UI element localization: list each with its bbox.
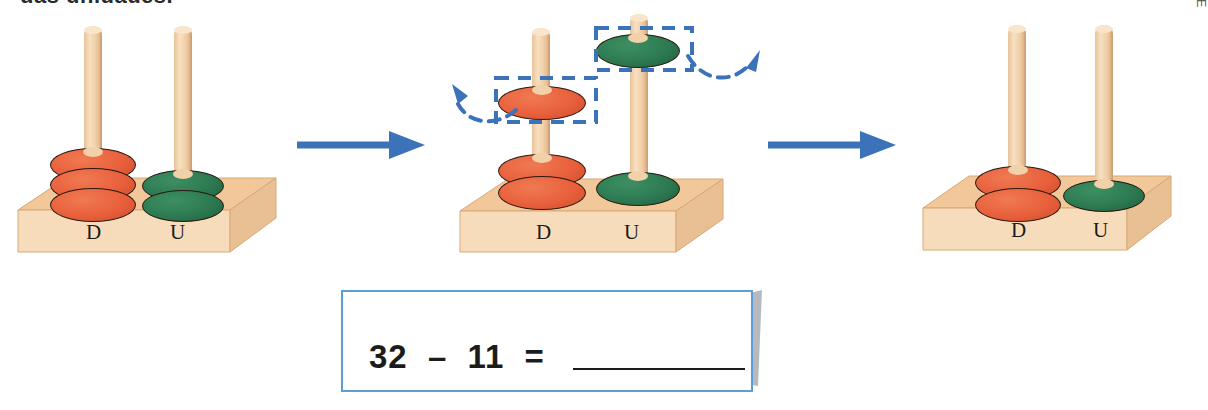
disc-green [1063, 180, 1145, 212]
peg-unidades [174, 26, 192, 186]
abacus-start: D U [8, 20, 283, 255]
disc-red [498, 176, 586, 210]
equation-box: 32 – 11 = [341, 290, 753, 392]
abacus-board [915, 20, 1177, 255]
column-label-u: U [1093, 218, 1108, 243]
column-label-d: D [1011, 218, 1026, 243]
arrow-step1-to-step2 [295, 128, 427, 162]
disc-red [975, 188, 1061, 222]
disc-green [142, 190, 224, 222]
cut-off-caption: das unidades. [20, 0, 173, 9]
curved-arrow-remove-red [440, 70, 520, 130]
column-label-u: U [170, 220, 185, 245]
column-label-u: U [624, 220, 639, 245]
equation-answer-blank[interactable] [573, 368, 745, 370]
peg-dezenas [1008, 25, 1026, 183]
abacus-board [8, 20, 283, 255]
equation-subtrahend: 11 [467, 338, 504, 375]
equation-minuend: 32 [369, 338, 408, 375]
curved-arrow-remove-green [684, 28, 770, 90]
peg-unidades [1095, 25, 1113, 195]
column-label-d: D [86, 220, 101, 245]
equation-operator: – [428, 338, 447, 375]
arrow-step2-to-step3 [766, 128, 898, 162]
illustration-credit: ILUSTRAÇÕES: EDITORIA DE ARTE [1194, 0, 1208, 8]
disc-green [596, 172, 680, 206]
abacus-result: D U [915, 20, 1177, 255]
column-label-d: D [536, 220, 551, 245]
disc-red [50, 188, 136, 222]
equation-equals: = [524, 338, 544, 375]
equation-text: 32 – 11 = [369, 338, 745, 376]
selection-box-green-disc [594, 26, 694, 72]
